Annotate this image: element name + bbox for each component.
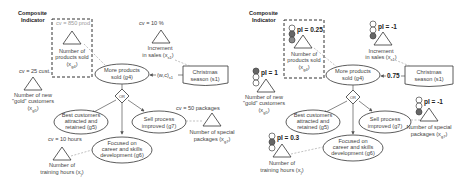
goal-label: More products xyxy=(104,67,140,73)
indicator-triangle-icon[interactable] xyxy=(63,31,81,44)
indicator-label: training hours (x)) xyxy=(40,169,83,177)
indicator-label: Number of xyxy=(49,162,76,168)
indicator-label: packages (xg7) xyxy=(411,131,448,139)
indicator-label: Increment xyxy=(148,45,173,51)
goal-label: Sell process xyxy=(370,116,401,122)
indicator-label: (xg4) xyxy=(67,61,78,69)
indicator-label: (xg5) xyxy=(28,105,39,113)
goal-g7[interactable] xyxy=(132,111,186,133)
composite-indicator-label: Indicator xyxy=(21,17,45,23)
left-panel: Composite Indicator cv = 850 prod Number… xyxy=(12,10,235,177)
indicator-label: Number of xyxy=(269,160,296,166)
indicator-label: (xg5) xyxy=(259,107,270,115)
composite-indicator-label: Indicator xyxy=(252,17,276,23)
performance-index: pI = -1 xyxy=(378,23,397,31)
situation-label: Christmas xyxy=(416,69,441,75)
goal-label: sold (g4) xyxy=(342,75,364,81)
goal-label: sold (g4) xyxy=(111,74,133,80)
traffic-light-icon xyxy=(416,97,422,115)
situation-label: season (s1) xyxy=(190,76,219,82)
or-label: OR xyxy=(119,94,125,99)
performance-index: pI = 0.3 xyxy=(277,134,300,142)
indicator-label: (xg4) xyxy=(299,64,310,72)
goal-label: development (g6) xyxy=(331,150,375,156)
performance-index: pI = -1 xyxy=(424,98,443,106)
goal-label: retained (g5) xyxy=(65,124,97,130)
performance-index: pI = 0.25 xyxy=(297,26,323,34)
indicator-label: "gold" customers xyxy=(243,100,285,106)
goal-label: development (g6) xyxy=(100,152,144,158)
composite-indicator-label: Composite xyxy=(18,10,47,16)
composite-indicator-label: Composite xyxy=(249,10,278,16)
indicator-triangle-icon[interactable] xyxy=(203,113,221,126)
or-label: OR xyxy=(350,95,356,100)
indicator-triangle-icon[interactable] xyxy=(273,144,291,157)
goal-label: More products xyxy=(335,68,371,74)
indicator-label: Number of special xyxy=(406,124,451,130)
cv-special-packages: cv = 50 packages xyxy=(176,105,220,111)
indicator-label: Number of special xyxy=(189,129,234,135)
indicator-label: products sold xyxy=(287,57,320,63)
goal-label: improved (g7) xyxy=(142,123,177,129)
influence-label: (w,c)s1 xyxy=(157,72,174,80)
performance-index: pI = 1 xyxy=(261,69,278,77)
situation-label: season (s1) xyxy=(414,76,443,82)
indicator-triangle-icon[interactable] xyxy=(53,147,71,160)
goal-label: improved (g7) xyxy=(368,123,403,129)
traffic-light-icon xyxy=(370,21,376,39)
situation-label: Christmas xyxy=(192,69,217,75)
indicator-triangle-icon[interactable] xyxy=(24,77,42,90)
traffic-light-icon xyxy=(289,25,295,43)
goal-model-diagram: Composite Indicator cv = 850 prod Number… xyxy=(0,0,462,184)
goal-g7[interactable] xyxy=(359,111,411,133)
influence-value: 0.75 xyxy=(387,72,400,79)
right-panel: Composite Indicator pI = 0.25 Number of … xyxy=(243,10,453,175)
goal-label: Sell process xyxy=(144,116,175,122)
indicator-triangle-icon[interactable] xyxy=(257,79,275,92)
cv-training-hours: cv = 10 hours xyxy=(48,136,82,142)
indicator-triangle-icon[interactable] xyxy=(294,35,312,48)
indicator-label: products sold xyxy=(55,54,88,60)
indicator-label: "gold" customers xyxy=(12,98,54,104)
goal-label: retained (g5) xyxy=(297,124,329,130)
indicator-label: packages (xg7) xyxy=(194,136,231,144)
indicator-label: in sales (xs1) xyxy=(365,54,396,62)
indicator-label: in sales (xs1) xyxy=(142,52,173,60)
indicator-triangle-icon[interactable] xyxy=(152,30,170,43)
cv-products-sold: cv = 850 prod xyxy=(56,20,90,26)
indicator-triangle-icon[interactable] xyxy=(420,108,438,121)
traffic-light-icon xyxy=(253,68,259,86)
indicator-label: training hours (x)) xyxy=(260,167,303,175)
traffic-light-icon xyxy=(269,133,275,151)
indicator-triangle-icon[interactable] xyxy=(374,32,392,45)
cv-gold-customers: cv = 25 cust. xyxy=(19,68,51,74)
cv-increment-sales: cv = 10 % xyxy=(139,20,164,26)
